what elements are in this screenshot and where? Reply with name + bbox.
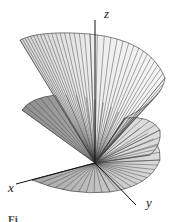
z-axis-label: z	[104, 7, 109, 20]
figure-caption-fragment: Fi	[8, 214, 18, 222]
surface-plot	[0, 0, 183, 222]
y-axis-label: y	[146, 196, 152, 209]
x-axis-label: x	[8, 181, 14, 194]
